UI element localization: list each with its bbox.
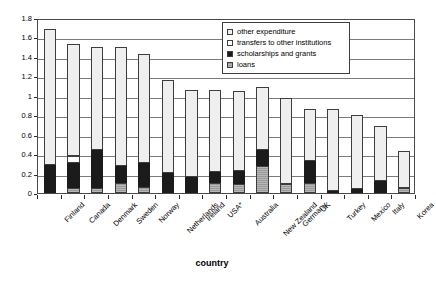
x-tick-label-ireland: Ireland [204, 201, 226, 223]
bar-segment-other-expenditure [398, 151, 410, 188]
legend-item: other expenditure [227, 26, 345, 37]
bar-segment-other-expenditure [280, 98, 292, 185]
y-tick-label: 1.4 [0, 54, 32, 62]
bar-segment-loans [91, 188, 103, 193]
legend-label: transfers to other institutions [237, 38, 331, 47]
bar-segment-scholarships-and-grants [256, 150, 268, 166]
bar-segment-other-expenditure [304, 109, 316, 161]
x-tick-mark [84, 195, 85, 199]
bar-ireland[interactable] [185, 18, 197, 193]
x-tick-mark [61, 195, 62, 199]
bar-segment-scholarships-and-grants [44, 165, 56, 193]
legend-item: loans [227, 59, 345, 70]
x-tick-mark [155, 195, 156, 199]
bar-segment-other-expenditure [351, 115, 363, 189]
bar-norway[interactable] [138, 18, 150, 193]
bar-segment-other-expenditure [256, 87, 268, 150]
bar-segment-loans [256, 166, 268, 193]
bar-segment-loans [209, 183, 221, 193]
bar-finland[interactable] [44, 18, 56, 193]
bar-segment-transfers-to-other-institutions [67, 156, 79, 163]
x-tick-mark [344, 195, 345, 199]
y-tick-label: 1.2 [0, 73, 32, 81]
x-tick-mark [202, 195, 203, 199]
bar-segment-loans [304, 183, 316, 193]
bar-segment-scholarships-and-grants [115, 166, 127, 184]
x-tick-label-australia: Australia [253, 201, 279, 227]
bar-segment-scholarships-and-grants [374, 181, 386, 193]
legend-swatch-scholar [227, 51, 233, 57]
legend-item: scholarships and grants [227, 48, 345, 59]
x-tick-mark [179, 195, 180, 199]
x-tick-mark [321, 195, 322, 199]
legend-label: loans [237, 60, 255, 69]
x-tick-label-canada: Canada [87, 201, 111, 225]
bar-sweden[interactable] [115, 18, 127, 193]
legend-label: scholarships and grants [237, 49, 316, 58]
y-tick-label: 0.4 [0, 151, 32, 159]
x-tick-label-denmark: Denmark [112, 201, 139, 228]
bar-segment-loans [398, 188, 410, 193]
bar-canada[interactable] [67, 18, 79, 193]
chart-legend: other expendituretransfers to other inst… [222, 22, 350, 74]
x-tick-label-norway: Norway [158, 201, 182, 225]
y-tick-label: 0.2 [0, 171, 32, 179]
bar-segment-other-expenditure [233, 91, 245, 171]
y-axis-title: %GDP [0, 58, 1, 86]
bar-segment-scholarships-and-grants [233, 171, 245, 185]
bar-segment-loans [115, 183, 127, 193]
x-tick-mark [273, 195, 274, 199]
x-axis-title: country [0, 258, 424, 268]
x-tick-label-mexico: Mexico [370, 201, 392, 223]
y-tick-label: 1.6 [0, 34, 32, 42]
x-tick-mark [415, 195, 416, 199]
bar-segment-scholarships-and-grants [138, 163, 150, 187]
legend-swatch-transfers [227, 40, 233, 46]
bar-segment-scholarships-and-grants [67, 163, 79, 188]
bar-denmark[interactable] [91, 18, 103, 193]
bar-segment-other-expenditure [374, 126, 386, 181]
bar-segment-scholarships-and-grants [162, 173, 174, 193]
bar-segment-other-expenditure [91, 47, 103, 150]
bar-mexico[interactable] [351, 18, 363, 193]
y-tick-label: 1 [0, 93, 32, 101]
x-tick-mark [368, 195, 369, 199]
x-tick-label-turkey: Turkey [346, 201, 368, 223]
bar-segment-other-expenditure [67, 44, 79, 156]
y-tick-label: 0.6 [0, 132, 32, 140]
bar-segment-scholarships-and-grants [91, 150, 103, 188]
x-tick-label-finland: Finland [63, 201, 86, 224]
bar-segment-scholarships-and-grants [304, 161, 316, 183]
bar-segment-loans [280, 184, 292, 193]
x-tick-mark [226, 195, 227, 199]
bar-korea[interactable] [398, 18, 410, 193]
bar-italy[interactable] [374, 18, 386, 193]
x-tick-mark [250, 195, 251, 199]
bar-segment-scholarships-and-grants [327, 191, 339, 193]
x-tick-mark [37, 195, 38, 199]
bar-segment-other-expenditure [44, 29, 56, 165]
y-tick-label: 0 [0, 190, 32, 198]
bar-segment-scholarships-and-grants [209, 172, 221, 184]
x-tick-label-italy: Italy [391, 201, 406, 216]
bar-usa[interactable] [209, 18, 221, 193]
x-tick-label-korea: Korea [416, 201, 436, 221]
x-tick-mark [132, 195, 133, 199]
x-tick-mark [108, 195, 109, 199]
legend-swatch-loans [227, 62, 233, 68]
y-tick-label: 0.8 [0, 112, 32, 120]
bar-segment-other-expenditure [162, 80, 174, 172]
bar-netherlands[interactable] [162, 18, 174, 193]
y-tick-label: 1.8 [0, 15, 32, 23]
bar-segment-scholarships-and-grants [185, 177, 197, 194]
bar-segment-other-expenditure [327, 109, 339, 191]
bar-segment-other-expenditure [185, 90, 197, 177]
legend-item: transfers to other institutions [227, 37, 345, 48]
x-tick-mark [297, 195, 298, 199]
bar-segment-loans [138, 187, 150, 193]
legend-swatch-other [227, 29, 233, 35]
bar-segment-other-expenditure [138, 54, 150, 163]
bar-segment-scholarships-and-grants [351, 189, 363, 193]
bar-segment-other-expenditure [209, 90, 221, 172]
